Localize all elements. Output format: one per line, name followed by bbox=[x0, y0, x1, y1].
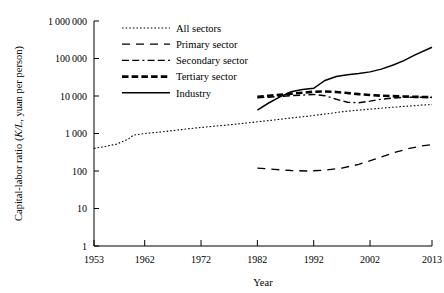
x-axis-ticks bbox=[94, 240, 432, 246]
y-title-symbol: K/L bbox=[13, 122, 24, 139]
chart-legend: All sectorsPrimary sectorSecondary secto… bbox=[122, 23, 249, 99]
legend-label-tertiary-sector: Tertiary sector bbox=[176, 71, 237, 82]
capital-labor-ratio-line-chart: 1101001 00010 000100 0001 000 000 195319… bbox=[0, 0, 444, 293]
x-tick-label: 1992 bbox=[304, 254, 324, 265]
chart-figure: 1101001 00010 000100 0001 000 000 195319… bbox=[0, 0, 444, 293]
y-title-part-2: , yuan per person) bbox=[13, 46, 25, 122]
x-tick-label: 1972 bbox=[191, 254, 211, 265]
y-axis-title: Capital-labor ratio (K/L, yuan per perso… bbox=[13, 46, 25, 221]
y-title-part-1: Capital-labor ratio ( bbox=[13, 137, 25, 221]
chart-plot-area bbox=[94, 47, 432, 171]
y-axis-ticks bbox=[94, 21, 99, 246]
x-axis-title: Year bbox=[253, 277, 273, 288]
y-tick-label: 10 000 bbox=[60, 91, 87, 102]
x-axis-tick-labels: 1953196219721982199220022013 bbox=[84, 254, 442, 265]
y-tick-label: 1 000 000 bbox=[48, 16, 87, 27]
y-tick-label: 100 000 bbox=[55, 53, 87, 64]
y-axis-tick-labels: 1101001 00010 000100 0001 000 000 bbox=[48, 16, 87, 252]
legend-label-all-sectors: All sectors bbox=[176, 23, 221, 34]
series-line-industry bbox=[257, 47, 432, 110]
legend-label-industry: Industry bbox=[176, 88, 212, 99]
x-tick-label: 1953 bbox=[84, 254, 104, 265]
y-tick-label: 1 000 bbox=[65, 128, 87, 139]
x-tick-label: 2013 bbox=[422, 254, 442, 265]
series-line-primary-sector bbox=[257, 144, 432, 171]
y-tick-label: 10 bbox=[77, 203, 87, 214]
x-tick-label: 1982 bbox=[247, 254, 267, 265]
chart-axes: 1101001 00010 000100 0001 000 000 195319… bbox=[48, 16, 442, 265]
legend-label-secondary-sector: Secondary sector bbox=[176, 55, 249, 66]
y-tick-label: 100 bbox=[72, 166, 87, 177]
y-tick-label: 1 bbox=[82, 241, 87, 252]
series-line-all-sectors bbox=[94, 105, 432, 149]
x-tick-label: 1962 bbox=[135, 254, 155, 265]
x-tick-label: 2002 bbox=[360, 254, 380, 265]
legend-label-primary-sector: Primary sector bbox=[176, 39, 238, 50]
